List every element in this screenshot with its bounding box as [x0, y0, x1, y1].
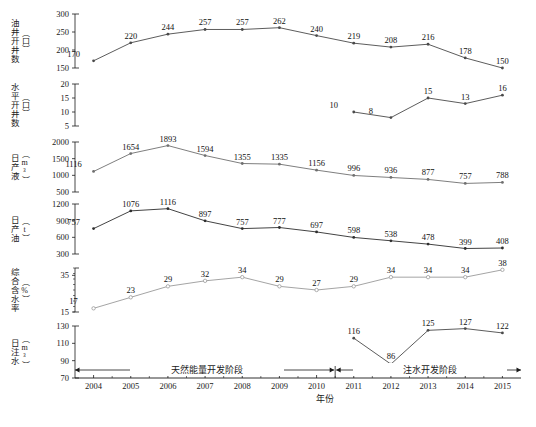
data-point	[241, 275, 244, 278]
data-point	[501, 94, 504, 97]
data-label: 538	[371, 229, 411, 239]
data-point	[278, 26, 281, 29]
data-point	[241, 227, 244, 230]
data-point	[501, 181, 504, 184]
y-axis-spine	[75, 84, 79, 126]
data-point	[129, 152, 132, 155]
data-label: 13	[445, 92, 485, 102]
data-point	[390, 46, 393, 49]
data-point	[501, 268, 504, 271]
data-label: 8	[351, 106, 391, 116]
data-label: 122	[482, 321, 522, 331]
y-axis-title-name: 日注水	[9, 339, 19, 366]
data-label: 29	[148, 274, 188, 284]
y-axis-spine	[75, 204, 79, 254]
y-axis-title-horizontal-wells: 水平开井数（口）	[2, 80, 36, 130]
data-label: 1116	[148, 197, 188, 207]
data-point	[427, 43, 430, 46]
data-point	[92, 227, 95, 230]
data-label: 125	[408, 318, 448, 328]
data-label: 10	[314, 100, 354, 110]
y-axis-spine	[75, 14, 79, 68]
y-axis-title-name: 水平开井数	[9, 83, 19, 128]
data-point	[166, 285, 169, 288]
data-point	[501, 67, 504, 70]
data-point	[464, 102, 467, 105]
data-label: 257	[222, 17, 262, 27]
data-label: 29	[259, 274, 299, 284]
data-label: 478	[408, 232, 448, 242]
y-axis-title-name: 综合含水率	[9, 268, 19, 313]
data-point	[129, 41, 132, 44]
phase-arrow-head	[336, 368, 341, 373]
data-point	[204, 219, 207, 222]
data-point	[315, 169, 318, 172]
data-label: 877	[408, 167, 448, 177]
data-point	[427, 178, 430, 181]
data-label: 1594	[185, 144, 225, 154]
y-axis-title-water-cut: 综合含水率（%）	[2, 264, 36, 316]
data-point	[501, 332, 504, 335]
data-label: 16	[482, 83, 522, 93]
phase-label-natural-energy: 天然能量开发阶段	[130, 363, 284, 376]
data-label: 29	[334, 274, 374, 284]
data-label: 1156	[297, 158, 337, 168]
data-label: 116	[334, 326, 374, 336]
data-point	[501, 247, 504, 250]
data-point	[464, 247, 467, 250]
data-point	[92, 170, 95, 173]
data-label: 170	[54, 49, 94, 59]
data-label: 257	[185, 17, 225, 27]
data-point	[278, 226, 281, 229]
data-label: 697	[297, 220, 337, 230]
data-label: 208	[371, 35, 411, 45]
data-label: 220	[111, 31, 151, 41]
data-point	[167, 33, 170, 36]
data-label: 757	[445, 171, 485, 181]
y-axis-title-oil-wells: 油井开井数（口）	[2, 10, 36, 72]
data-label: 757	[222, 217, 262, 227]
phase-arrow-head	[330, 368, 335, 373]
data-label: 777	[259, 216, 299, 226]
data-point	[352, 285, 355, 288]
data-label: 34	[445, 265, 485, 275]
data-point	[167, 144, 170, 147]
data-point	[278, 163, 281, 166]
data-point	[315, 231, 318, 234]
y-axis-title-unit: （口）	[19, 29, 29, 53]
x-tick-label: 2015	[479, 381, 525, 391]
data-label: 897	[185, 209, 225, 219]
data-label: 216	[408, 32, 448, 42]
data-label: 244	[148, 22, 188, 32]
y-axis-title-unit: （%）	[19, 278, 29, 303]
data-label: 240	[297, 24, 337, 34]
data-point	[426, 275, 429, 278]
y-axis-title-unit: （口）	[19, 93, 29, 117]
data-point	[427, 329, 430, 332]
data-point	[427, 243, 430, 246]
data-label: 757	[54, 217, 94, 227]
data-point	[315, 34, 318, 37]
data-point	[92, 59, 95, 62]
data-point	[167, 207, 170, 210]
data-label: 23	[111, 285, 151, 295]
data-point	[278, 285, 281, 288]
data-point	[352, 174, 355, 177]
data-label: 127	[445, 317, 485, 327]
data-label: 17	[54, 296, 94, 306]
data-point	[390, 176, 393, 179]
y-axis-title-name: 日产液	[9, 154, 19, 181]
data-label: 1076	[111, 199, 151, 209]
data-label: 34	[408, 265, 448, 275]
data-point	[241, 162, 244, 165]
data-label: 788	[482, 170, 522, 180]
phase-arrow-head	[75, 368, 80, 373]
y-axis-title-daily-oil: 日产油（t）	[2, 200, 36, 258]
data-point	[204, 154, 207, 157]
data-point	[315, 288, 318, 291]
data-label: 936	[371, 165, 411, 175]
data-label: 34	[371, 265, 411, 275]
data-label: 262	[259, 16, 299, 26]
x-axis-title: 年份	[285, 392, 365, 405]
data-point	[390, 116, 393, 119]
